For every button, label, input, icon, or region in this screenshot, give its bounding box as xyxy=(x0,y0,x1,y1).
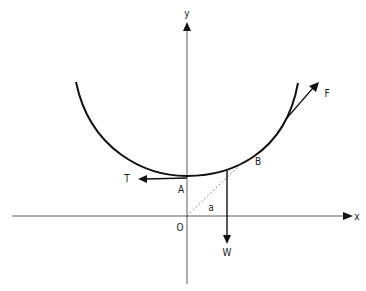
point-a-label: A xyxy=(178,185,184,195)
weight-label: W xyxy=(223,248,232,258)
y-axis-label: y xyxy=(184,9,189,19)
x-axis-arrow-icon xyxy=(343,212,353,220)
tension-arrow xyxy=(146,178,187,179)
dashed-line-OB xyxy=(187,163,242,216)
diagram-canvas xyxy=(0,0,366,291)
angle-label: a xyxy=(208,203,214,213)
weight-arrowhead-icon xyxy=(223,235,231,244)
applied-force-label: F xyxy=(324,89,329,99)
applied-force-arrow xyxy=(286,88,313,119)
origin-label: O xyxy=(176,223,183,233)
point-b-label: B xyxy=(255,157,261,167)
tension-arrowhead-icon xyxy=(138,175,147,183)
x-axis-label: x xyxy=(354,212,359,222)
y-axis-arrow-icon xyxy=(183,22,191,31)
tension-label: T xyxy=(124,174,130,184)
